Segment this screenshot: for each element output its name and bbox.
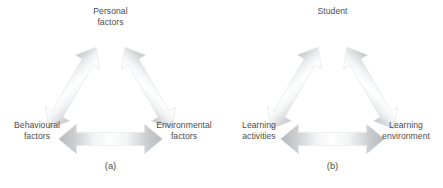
node-label-top-a-line2: factors [0,17,221,28]
node-label-right-b-line2: environment [369,131,443,142]
node-label-right-a: Environmental factors [147,120,221,142]
node-label-left-a-line1: Behavioural [0,120,74,131]
node-label-right-a-line2: factors [147,131,221,142]
diagram-panel-a: Personal factors Behavioural factors Env… [0,0,221,188]
node-label-left-b-line2: activities [222,131,296,142]
node-label-top-b: Student [222,6,443,17]
triangle-diagram-b: Student Learning activities Learning env… [222,0,443,155]
node-label-right-a-line1: Environmental [147,120,221,131]
node-label-right-b-line1: Learning [369,120,443,131]
diagram-panel-b: Student Learning activities Learning env… [222,0,443,188]
panel-caption-b: (b) [222,160,443,171]
node-label-left-b: Learning activities [222,120,296,142]
node-label-left-a-line2: factors [0,131,74,142]
node-label-top-a: Personal factors [0,6,221,28]
node-label-left-b-line1: Learning [222,120,296,131]
node-label-top-b-line1: Student [222,6,443,17]
node-label-right-b: Learning environment [369,120,443,142]
node-label-top-a-line1: Personal [0,6,221,17]
figure-root: Personal factors Behavioural factors Env… [0,0,443,188]
node-label-left-a: Behavioural factors [0,120,74,142]
panel-caption-a: (a) [0,160,221,171]
triangle-diagram-a: Personal factors Behavioural factors Env… [0,0,221,155]
